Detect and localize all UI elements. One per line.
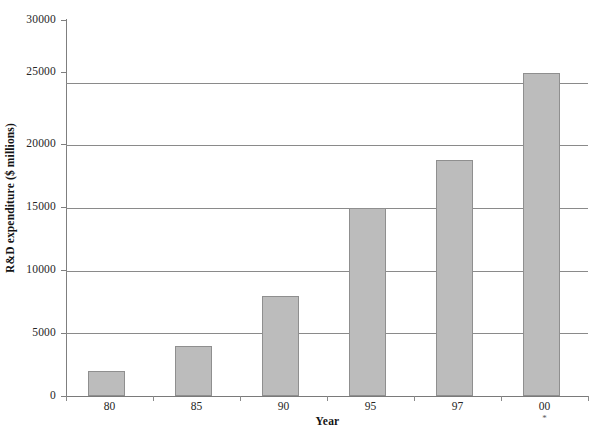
- gridline-15000: [66, 208, 588, 209]
- y-axis-tick-labels: 30000 25000 20000 15000 10000 5000 0: [0, 0, 56, 435]
- gridline-20000: [66, 145, 588, 146]
- y-tick-label: 15000: [26, 201, 56, 213]
- bar-85: [175, 346, 212, 396]
- x-tick-label-85: 85: [153, 400, 240, 413]
- x-tick-mark: [588, 396, 589, 401]
- x-tick-label-95: 95: [327, 400, 414, 413]
- x-tick-label-80: 80: [66, 400, 153, 413]
- x-tick-label-97: 97: [414, 400, 501, 413]
- y-tick-label: 30000: [26, 14, 56, 26]
- x-tick-label-90: 90: [240, 400, 327, 413]
- y-tick-label: 0: [50, 390, 56, 402]
- y-tick-label: 5000: [32, 327, 56, 339]
- bar-chart: R&D expenditure ($ millions) 30000 25000…: [0, 0, 597, 435]
- gridline-10000: [66, 271, 588, 272]
- x-tick-label-00: 00: [501, 400, 588, 413]
- plot-area: [66, 20, 588, 396]
- bar-00: [523, 73, 560, 396]
- bar-90: [262, 296, 299, 396]
- bar-80: [88, 371, 125, 396]
- y-tick-label: 20000: [26, 138, 56, 150]
- gridline-25000: [66, 83, 588, 84]
- bar-97: [436, 160, 473, 396]
- y-tick-label: 25000: [26, 66, 56, 78]
- x-axis-title: Year: [66, 415, 589, 427]
- y-tick-label: 10000: [26, 264, 56, 276]
- gridline-5000: [66, 333, 588, 334]
- bar-95: [349, 208, 386, 396]
